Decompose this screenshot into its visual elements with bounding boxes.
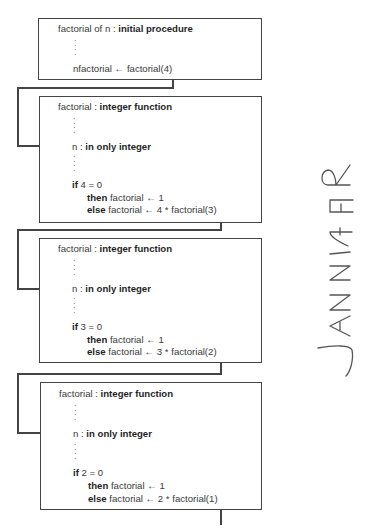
separator: : <box>93 388 101 399</box>
connector-line <box>220 509 222 525</box>
ellipsis-dots: ···· <box>74 404 80 422</box>
else-keyword: else <box>87 346 106 357</box>
if-line: if 4 = 0 <box>72 179 102 190</box>
function-header: factorial : integer function <box>58 101 172 112</box>
function-kind: integer function <box>100 101 172 112</box>
else-line: else factorial ← 2 * factorial(1) <box>88 493 218 504</box>
if-condition: 2 = 0 <box>79 467 103 478</box>
separator: : <box>92 243 100 254</box>
ellipsis-dots: ···· <box>74 443 80 461</box>
else-keyword: else <box>87 204 106 215</box>
function-name: factorial <box>58 243 92 254</box>
function-header: factorial : integer function <box>58 243 172 254</box>
handwritten-signature <box>290 140 366 380</box>
then-line: then factorial ← 1 <box>87 192 164 203</box>
then-statement: factorial ← 1 <box>107 334 164 345</box>
call-lhs: nfactorial <box>73 63 112 74</box>
then-line: then factorial ← 1 <box>87 334 164 345</box>
call-rhs: factorial(4) <box>127 63 172 74</box>
else-line: else factorial ← 3 * factorial(2) <box>87 346 217 357</box>
connector-line <box>17 87 174 89</box>
assign-arrow-icon: ← <box>115 63 125 74</box>
procedure-call: nfactorial ← factorial(4) <box>73 63 172 74</box>
separator: : <box>92 101 100 112</box>
then-keyword: then <box>87 192 107 203</box>
param-kind: in only integer <box>85 283 151 294</box>
else-statement: factorial ← 4 * factorial(3) <box>106 204 217 215</box>
ellipsis-dots: ···· <box>73 259 79 277</box>
ellipsis-dots: ···· <box>73 155 79 173</box>
function-header: factorial : integer function <box>59 388 173 399</box>
connector-line <box>17 373 222 375</box>
else-keyword: else <box>88 493 107 504</box>
if-line: if 3 = 0 <box>72 321 102 332</box>
if-condition: 4 = 0 <box>78 179 102 190</box>
parameter-line: n : in only integer <box>72 283 151 294</box>
else-line: else factorial ← 4 * factorial(3) <box>87 204 217 215</box>
then-keyword: then <box>88 480 108 491</box>
then-statement: factorial ← 1 <box>107 192 164 203</box>
parameter-line: n : in only integer <box>73 428 152 439</box>
then-keyword: then <box>87 334 107 345</box>
function-frame-2: factorial : integer function ···· n : in… <box>39 238 262 363</box>
function-frame-3: factorial : integer function ···· n : in… <box>40 382 262 510</box>
function-kind: integer function <box>100 243 172 254</box>
procedure-name: factorial of n <box>58 23 110 34</box>
connector-line <box>17 229 19 289</box>
param-kind: in only integer <box>86 428 152 439</box>
connector-line <box>17 87 19 146</box>
else-statement: factorial ← 2 * factorial(1) <box>107 493 218 504</box>
function-name: factorial <box>59 388 93 399</box>
else-statement: factorial ← 3 * factorial(2) <box>106 346 217 357</box>
parameter-line: n : in only integer <box>72 141 151 152</box>
connector-line <box>17 373 19 433</box>
if-condition: 3 = 0 <box>78 321 102 332</box>
ellipsis-dots: ···· <box>73 117 79 135</box>
then-line: then factorial ← 1 <box>88 480 165 491</box>
if-line: if 2 = 0 <box>73 467 103 478</box>
procedure-box: factorial of n : initial procedure ···· … <box>38 18 262 80</box>
param-kind: in only integer <box>85 141 151 152</box>
then-statement: factorial ← 1 <box>108 480 165 491</box>
function-kind: integer function <box>101 388 173 399</box>
ellipsis-dots: ···· <box>73 297 79 315</box>
procedure-kind: initial procedure <box>118 23 193 34</box>
procedure-header: factorial of n : initial procedure <box>58 23 193 34</box>
ellipsis-dots: ···· <box>74 39 80 57</box>
connector-line <box>17 229 222 231</box>
function-frame-1: factorial : integer function ···· n : in… <box>39 96 262 223</box>
function-name: factorial <box>58 101 92 112</box>
